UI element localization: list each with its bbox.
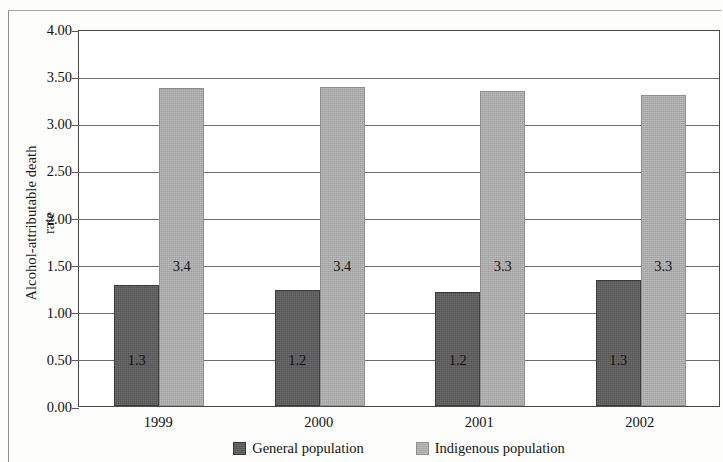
y-tick-label: 0.50: [0, 351, 72, 368]
y-tick-mark: [72, 313, 79, 314]
gridline: [79, 78, 719, 79]
y-tick-label: 2.50: [0, 163, 72, 180]
bar-value-label: 3.4: [321, 258, 364, 275]
y-tick-label: 2.00: [0, 210, 72, 227]
bar-value-label: 3.3: [642, 258, 685, 275]
y-tick-mark: [72, 125, 79, 126]
bar-value-label: 1.2: [436, 352, 479, 369]
y-tick-label: 1.50: [0, 257, 72, 274]
legend-label: General population: [252, 440, 364, 457]
y-tick-label: 4.00: [0, 22, 72, 39]
legend-item-indigenous-population[interactable]: Indigenous population: [416, 440, 565, 457]
bar-value-label: 3.3: [481, 258, 524, 275]
y-tick-mark: [72, 78, 79, 79]
x-tick-label-2001: 2001: [399, 414, 559, 431]
legend-item-general-population[interactable]: General population: [233, 440, 364, 457]
x-tick-label-2002: 2002: [560, 414, 720, 431]
legend-label: Indigenous population: [435, 440, 565, 457]
chart-legend: General populationIndigenous population: [78, 440, 720, 457]
x-tick-label-1999: 1999: [78, 414, 238, 431]
y-tick-mark: [72, 408, 79, 409]
y-tick-label: 3.00: [0, 116, 72, 133]
legend-swatch-icon: [233, 442, 246, 455]
y-tick-mark: [72, 266, 79, 267]
y-tick-label: 0.00: [0, 399, 72, 416]
y-tick-mark: [72, 360, 79, 361]
bar-indigenous-population-1999: 3.4: [159, 88, 204, 406]
y-tick-mark: [72, 172, 79, 173]
bar-general-population-2002: 1.3: [596, 280, 641, 406]
y-tick-label: 1.00: [0, 304, 72, 321]
bar-indigenous-population-2001: 3.3: [480, 91, 525, 406]
bar-general-population-2000: 1.2: [275, 290, 320, 406]
bar-indigenous-population-2002: 3.3: [641, 95, 686, 406]
y-tick-mark: [72, 219, 79, 220]
y-tick-mark: [72, 31, 79, 32]
y-tick-label: 3.50: [0, 69, 72, 86]
x-tick-label-2000: 2000: [239, 414, 399, 431]
bar-general-population-1999: 1.3: [114, 285, 159, 406]
bar-value-label: 1.3: [115, 352, 158, 369]
bar-indigenous-population-2000: 3.4: [320, 87, 365, 406]
bar-value-label: 1.3: [597, 352, 640, 369]
chart-figure: Alcohol-attributable death rate 1.33.41.…: [0, 0, 723, 462]
bar-value-label: 3.4: [160, 258, 203, 275]
legend-swatch-icon: [416, 442, 429, 455]
bar-general-population-2001: 1.2: [435, 292, 480, 406]
plot-area: 1.33.41.23.41.23.31.33.3: [78, 30, 720, 407]
bar-value-label: 1.2: [276, 352, 319, 369]
